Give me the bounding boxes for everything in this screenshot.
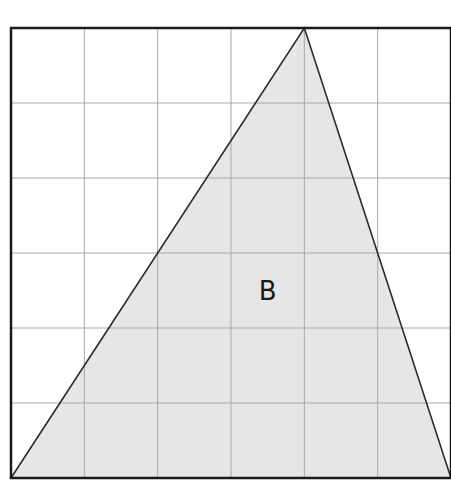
triangle-label: B xyxy=(259,276,277,306)
grid-triangle-diagram: B xyxy=(0,0,451,487)
